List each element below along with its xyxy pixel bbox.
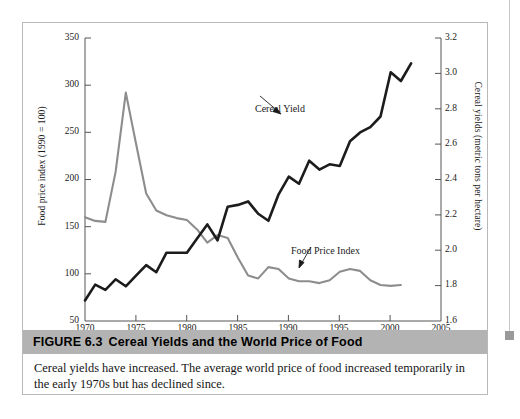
- scrollbar-thumb[interactable]: [505, 331, 514, 340]
- right-tick-2-8: 2.8: [445, 103, 471, 113]
- dual-axis-line-chart: [23, 23, 487, 328]
- right-axis-ticks: [435, 38, 441, 286]
- right-tick-2-6: 2.6: [445, 138, 471, 148]
- series-line-food-price-index: [85, 93, 401, 286]
- series-line-cereal-yield: [85, 63, 411, 300]
- figure-caption-body: Cereal yields have increased. The averag…: [23, 354, 487, 394]
- food-price-index-annotation: Food Price Index: [291, 245, 360, 256]
- chart-plot-area: Food price index (1990 = 100) Cereal yie…: [23, 23, 487, 328]
- left-tick-350: 350: [53, 32, 79, 42]
- cereal-yield-annotation: Cereal Yield: [255, 103, 305, 114]
- figure-title: Cereal Yields and the World Price of Foo…: [109, 335, 363, 349]
- right-axis-title: Cereal yields (metric tons per hectare): [473, 71, 483, 241]
- right-tick-1-8: 1.8: [445, 279, 471, 289]
- figure-number: FIGURE 6.3: [33, 335, 103, 349]
- left-axis-ticks: [85, 38, 91, 274]
- right-tick-2-0: 2.0: [445, 244, 471, 254]
- left-tick-200: 200: [53, 173, 79, 183]
- figure-caption-bar: FIGURE 6.3Cereal Yields and the World Pr…: [23, 330, 487, 354]
- left-tick-250: 250: [53, 126, 79, 136]
- left-tick-100: 100: [53, 268, 79, 278]
- right-tick-2-4: 2.4: [445, 173, 471, 183]
- left-tick-300: 300: [53, 79, 79, 89]
- figure-caption-bar-text: FIGURE 6.3Cereal Yields and the World Pr…: [23, 335, 362, 349]
- left-tick-150: 150: [53, 221, 79, 231]
- figure-container: Food price index (1990 = 100) Cereal yie…: [22, 22, 488, 395]
- scrollbar-track[interactable]: [509, 0, 510, 331]
- right-tick-3-0: 3.0: [445, 67, 471, 77]
- right-tick-2-2: 2.2: [445, 209, 471, 219]
- right-tick-3-2: 3.2: [445, 32, 471, 42]
- x-axis-ticks: [136, 315, 390, 321]
- left-axis-title: Food price index (1990 = 100): [37, 86, 47, 246]
